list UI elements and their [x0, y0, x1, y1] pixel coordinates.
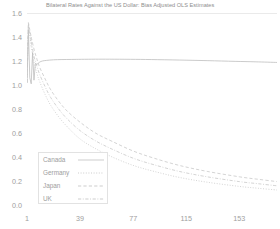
legend-line-sample	[77, 181, 105, 191]
x-tick-label: 153	[233, 214, 245, 223]
legend-item-label: UK	[39, 195, 77, 202]
series-line	[37, 59, 277, 64]
chart-container: Bilateral Rates Against the US Dollar: B…	[0, 0, 280, 229]
legend: CanadaGermanyJapanUK	[38, 152, 108, 204]
legend-item-label: Germany	[39, 169, 77, 176]
series-line	[27, 30, 37, 84]
x-tick-label: 115	[180, 214, 191, 223]
legend-line-sample	[77, 168, 105, 178]
legend-item-japan[interactable]: Japan	[39, 179, 107, 192]
legend-item-germany[interactable]: Germany	[39, 166, 107, 179]
x-tick-label: 77	[129, 214, 137, 223]
legend-item-canada[interactable]: Canada	[39, 153, 107, 166]
series-canada	[27, 30, 277, 84]
legend-item-label: Japan	[39, 182, 77, 189]
legend-item-uk[interactable]: UK	[39, 192, 107, 205]
legend-item-label: Canada	[39, 156, 77, 163]
x-tick-label: 39	[76, 214, 84, 223]
x-tick-label: 1	[25, 214, 29, 223]
legend-line-sample	[77, 194, 105, 204]
legend-line-sample	[77, 155, 105, 165]
